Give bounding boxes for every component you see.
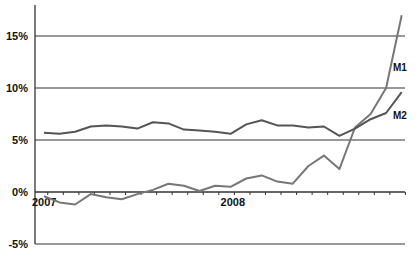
x-axis: 20072008 (32, 192, 405, 208)
y-tick-label: 5% (12, 134, 28, 146)
y-axis: -5%0%5%10%15% (6, 5, 35, 250)
y-tick-label: -5% (8, 238, 28, 250)
series-line-m2 (44, 92, 402, 136)
series-labels: M1M2 (393, 62, 407, 121)
y-tick-label: 0% (12, 186, 28, 198)
x-tick-label: 2008 (221, 196, 245, 208)
series-line-m1 (44, 15, 402, 204)
line-chart: -5%0%5%10%15% 20072008 M1M2 (0, 0, 417, 258)
y-tick-label: 15% (6, 30, 28, 42)
series-label-m1: M1 (393, 62, 407, 73)
series-lines (44, 15, 402, 204)
series-label-m2: M2 (393, 110, 407, 121)
x-tick-label: 2007 (32, 196, 56, 208)
y-tick-label: 10% (6, 82, 28, 94)
